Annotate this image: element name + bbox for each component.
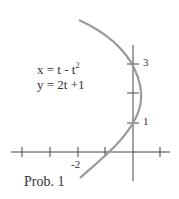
x-equation: x = t - t2 <box>37 58 79 77</box>
parametric-curve <box>79 20 141 178</box>
y-tick-label-1: 1 <box>143 115 149 127</box>
x-equation-text: x = t - t <box>37 62 75 77</box>
y-equation: y = 2t +1 <box>37 77 85 92</box>
x-axis <box>11 147 170 157</box>
x-equation-exponent: 2 <box>75 61 79 70</box>
y-tick-label-3: 3 <box>143 56 149 68</box>
problem-caption: Prob. 1 <box>24 174 64 190</box>
x-tick-label-neg2: -2 <box>71 158 80 170</box>
graph <box>0 0 179 199</box>
